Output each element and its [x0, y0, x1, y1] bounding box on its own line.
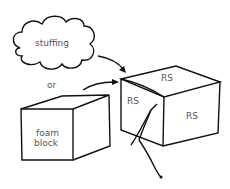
arrowhead-icon	[119, 66, 126, 73]
diagram-canvas	[0, 0, 230, 189]
or-label: or	[47, 80, 56, 90]
cloud-label: stuffing	[35, 38, 69, 48]
foam-label-line1: foam	[36, 128, 59, 138]
arrow-cloud-to-cube	[98, 56, 124, 70]
arrowhead-icon	[112, 79, 119, 85]
cube-left-label: RS	[127, 96, 139, 106]
cube-right-label: RS	[186, 111, 198, 121]
thread-end-dot	[159, 175, 162, 178]
cube-top-label: RS	[161, 73, 173, 83]
foam-block-shape	[21, 95, 110, 160]
foam-label-line2: block	[34, 138, 58, 148]
arrow-or-to-cube	[83, 82, 114, 90]
